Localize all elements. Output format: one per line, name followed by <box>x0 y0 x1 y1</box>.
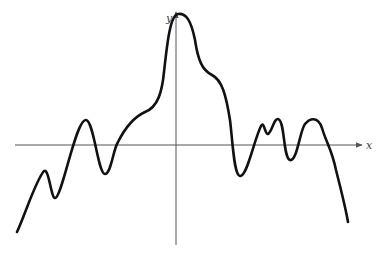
function-curve <box>17 14 348 232</box>
y-axis-label: y <box>165 12 173 25</box>
x-axis-label: x <box>366 139 373 152</box>
function-graph: y x <box>0 0 377 257</box>
